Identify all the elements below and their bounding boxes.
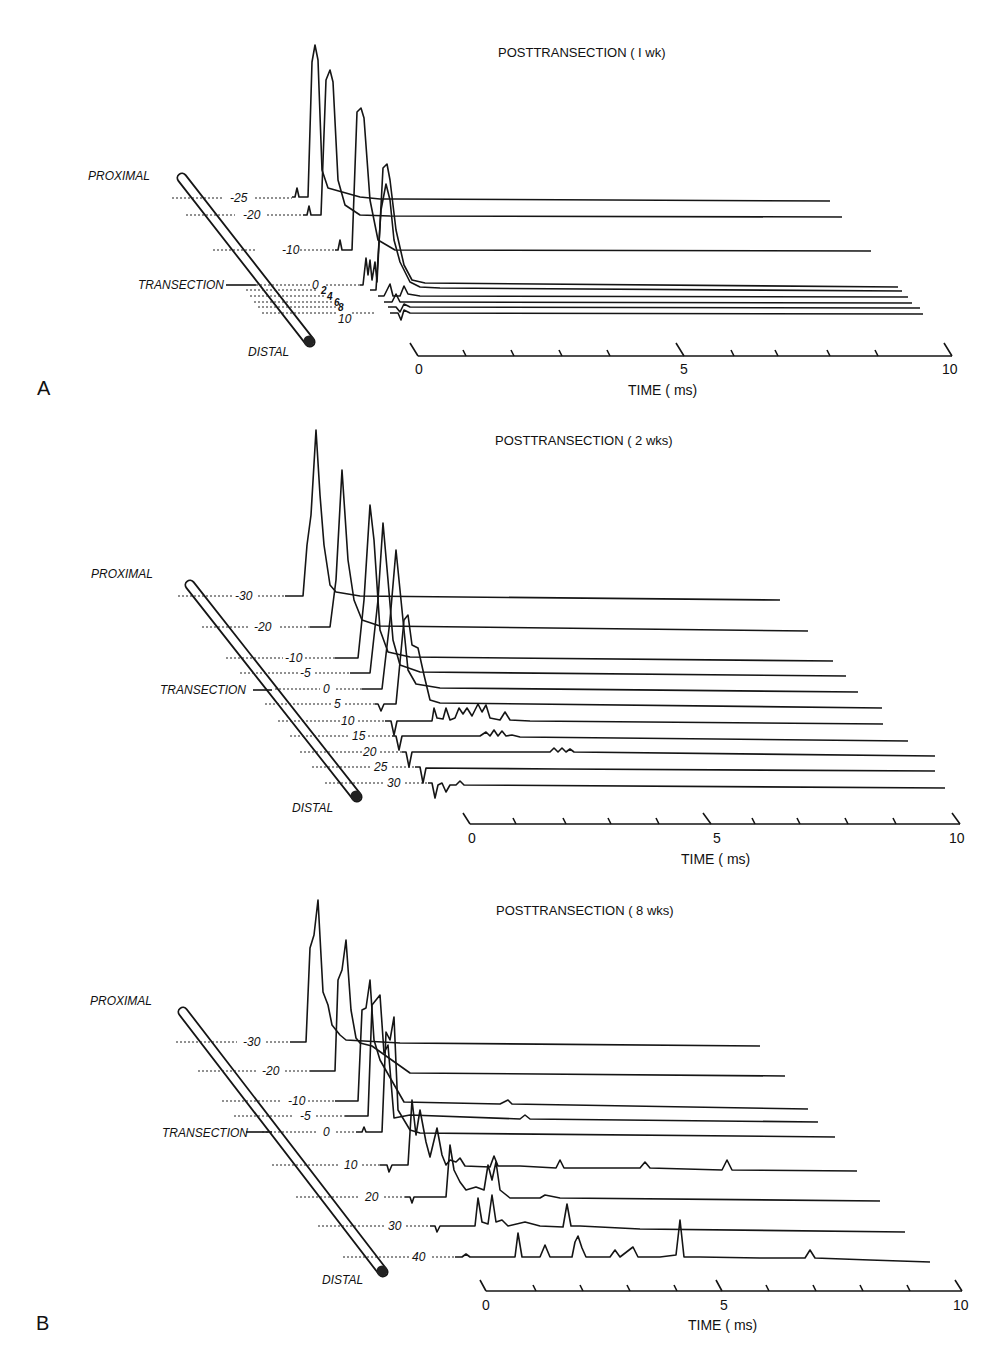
panel-8wks: POSTTRANSECTION ( 8 wks) PROXIMAL TRANSE… — [36, 900, 969, 1334]
time-axis-2wks: 0 5 10 TIME ( ms) — [463, 813, 965, 867]
svg-text:TIME ( ms): TIME ( ms) — [628, 382, 697, 398]
svg-text:10: 10 — [338, 312, 352, 326]
proximal-label: PROXIMAL — [90, 994, 152, 1008]
time-axis-8wks: 0 5 10 TIME ( ms) — [480, 1280, 969, 1333]
svg-text:5: 5 — [680, 361, 688, 377]
figure-canvas: POSTTRANSECTION ( I wk) PROXIMAL TRANSEC… — [0, 0, 1004, 1355]
svg-text:-20: -20 — [243, 208, 261, 222]
nerve-icon — [183, 1012, 388, 1277]
svg-text:10: 10 — [341, 714, 355, 728]
svg-text:30: 30 — [387, 776, 401, 790]
svg-text:0: 0 — [323, 682, 330, 696]
svg-text:10: 10 — [344, 1158, 358, 1172]
svg-text:0: 0 — [482, 1297, 490, 1313]
transection-label: TRANSECTION — [138, 278, 224, 292]
svg-text:-5: -5 — [300, 666, 311, 680]
svg-text:5: 5 — [334, 697, 341, 711]
svg-text:-30: -30 — [243, 1035, 261, 1049]
panel-2wks: POSTTRANSECTION ( 2 wks) PROXIMAL TRANSE… — [91, 430, 965, 867]
svg-text:-25: -25 — [230, 191, 248, 205]
svg-text:-20: -20 — [262, 1064, 280, 1078]
transection-label: TRANSECTION — [160, 683, 246, 697]
distal-label: DISTAL — [322, 1273, 363, 1287]
svg-text:30: 30 — [388, 1219, 402, 1233]
svg-text:5: 5 — [720, 1297, 728, 1313]
panel-1wk: POSTTRANSECTION ( I wk) PROXIMAL TRANSEC… — [37, 45, 958, 399]
svg-text:10: 10 — [953, 1297, 969, 1313]
svg-text:10: 10 — [949, 830, 965, 846]
svg-text:2: 2 — [320, 285, 327, 296]
time-axis-1wk: 0 5 10 TIME ( ms) — [410, 343, 958, 398]
svg-text:-20: -20 — [254, 620, 272, 634]
svg-text:5: 5 — [713, 830, 721, 846]
electrode-labels: -30 -20 -10 -5 0 10 20 30 40 — [176, 1035, 455, 1264]
svg-text:-10: -10 — [282, 243, 300, 257]
nerve-icon — [182, 178, 315, 347]
proximal-label: PROXIMAL — [91, 567, 153, 581]
svg-text:25: 25 — [373, 760, 388, 774]
traces-1wk — [292, 45, 923, 320]
panel-title-1wk: POSTTRANSECTION ( I wk) — [498, 45, 666, 60]
panel-title-8wks: POSTTRANSECTION ( 8 wks) — [496, 903, 674, 918]
svg-text:TIME ( ms): TIME ( ms) — [688, 1317, 757, 1333]
svg-text:0: 0 — [323, 1125, 330, 1139]
svg-text:-10: -10 — [285, 651, 303, 665]
traces-2wks — [285, 430, 945, 798]
panel-title-2wks: POSTTRANSECTION ( 2 wks) — [495, 433, 673, 448]
svg-text:20: 20 — [362, 745, 377, 759]
distal-label: DISTAL — [248, 345, 289, 359]
svg-text:0: 0 — [468, 830, 476, 846]
svg-text:40: 40 — [412, 1250, 426, 1264]
svg-text:-10: -10 — [288, 1094, 306, 1108]
svg-text:0: 0 — [415, 361, 423, 377]
svg-text:15: 15 — [352, 729, 366, 743]
distal-label: DISTAL — [292, 801, 333, 815]
svg-text:-30: -30 — [235, 589, 253, 603]
svg-text:10: 10 — [942, 361, 958, 377]
svg-text:TIME ( ms): TIME ( ms) — [681, 851, 750, 867]
panel-letter-a: A — [37, 377, 51, 399]
transection-label: TRANSECTION — [162, 1126, 248, 1140]
svg-text:-5: -5 — [300, 1109, 311, 1123]
traces-8wks — [290, 900, 930, 1262]
svg-text:20: 20 — [364, 1190, 379, 1204]
proximal-label: PROXIMAL — [88, 169, 150, 183]
svg-text:4: 4 — [326, 291, 333, 302]
panel-letter-b: B — [36, 1312, 49, 1334]
